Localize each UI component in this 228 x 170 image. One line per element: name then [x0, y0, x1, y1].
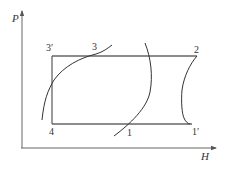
point-label-3: 3: [92, 42, 97, 52]
point-label-1: 1: [127, 128, 132, 138]
point-label-2: 2: [194, 45, 199, 55]
point-label-1prime: 1′: [192, 127, 199, 137]
compression-curve: [182, 56, 197, 124]
saturated-vapor-curve: [114, 43, 151, 136]
point-label-3prime: 3′: [46, 43, 53, 53]
y-axis-label: P: [12, 13, 19, 24]
ph-diagram: [0, 0, 228, 170]
x-axis-label: H: [201, 151, 209, 162]
point-label-4: 4: [49, 127, 54, 137]
